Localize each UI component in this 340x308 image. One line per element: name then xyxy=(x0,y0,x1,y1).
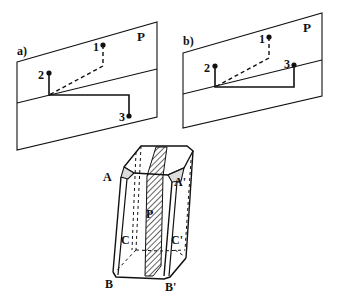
point-b-2-label: 2 xyxy=(204,61,210,75)
point-b-2-marker xyxy=(212,63,217,68)
panel-b-plane-label: P xyxy=(303,20,311,35)
panel-b-label: b) xyxy=(183,34,194,48)
point-a-3-label: 3 xyxy=(119,110,125,124)
panel-b: b) P 1 2 3 xyxy=(183,13,322,128)
point-b-3-marker xyxy=(291,62,296,67)
point-b-3-label: 3 xyxy=(284,57,290,71)
crystal-far-right-edge xyxy=(186,151,193,258)
point-a-1-label: 1 xyxy=(93,40,99,54)
point-b-1-label: 1 xyxy=(259,32,265,46)
bevel-a xyxy=(121,167,134,179)
panel-a-label: a) xyxy=(17,44,27,58)
panel-a: a) P 1 2 3 xyxy=(17,22,157,150)
point-a-3-marker xyxy=(126,113,131,118)
crystal-label-b: B xyxy=(105,277,113,291)
point-a-1-marker xyxy=(100,42,105,47)
hidden-edge-bottom-right xyxy=(175,250,184,256)
crystal-label-b-prime: B' xyxy=(165,280,176,294)
crystal-label-c: C xyxy=(121,233,130,247)
crystal-label-c-prime: C' xyxy=(171,233,183,247)
crystal-label-a-prime: A' xyxy=(174,175,186,189)
point-b-1-marker xyxy=(266,34,271,39)
point-a-2-marker xyxy=(46,70,51,75)
crystal-drawing: A A' P C C' B B' xyxy=(103,146,193,294)
point-a-2-label: 2 xyxy=(38,68,44,82)
diagram-canvas: a) P 1 2 3 b) P 1 2 3 xyxy=(0,0,340,308)
panel-a-plane-label: P xyxy=(137,29,145,44)
path-a-solid xyxy=(49,73,129,116)
hidden-edge-back-left xyxy=(136,146,141,250)
crystal-label-a: A xyxy=(103,170,112,184)
hidden-edge-back-left-2 xyxy=(132,152,136,250)
crystal-label-p: P xyxy=(146,207,153,221)
